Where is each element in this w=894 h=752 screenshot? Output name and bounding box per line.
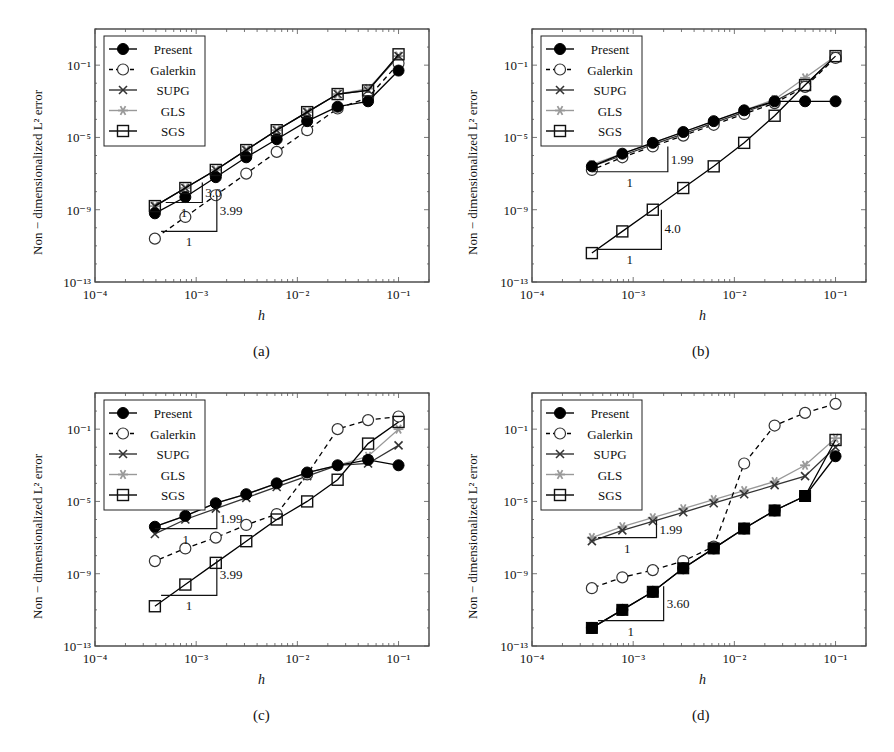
x-tick-label: 10⁻³ — [184, 287, 208, 302]
y-tick-label: 10⁻⁵ — [503, 494, 528, 509]
legend-label: Present — [591, 406, 630, 421]
caption: (c) — [253, 707, 270, 724]
x-tick-label: 10⁻¹ — [824, 287, 848, 302]
chart-d: 10⁻⁴10⁻³10⁻²10⁻¹10⁻¹³10⁻⁹10⁻⁵10⁻¹1.9913.… — [437, 364, 884, 740]
y-tick-label: 10⁻⁹ — [503, 567, 528, 582]
Galerkin-marker — [800, 407, 811, 418]
legend-label: Present — [154, 42, 193, 57]
slope-label: 3.60 — [667, 596, 690, 611]
Present-marker — [830, 451, 841, 462]
Galerkin-marker — [363, 415, 374, 426]
legend-label: SUPG — [593, 83, 626, 98]
legend-label: SUPG — [593, 447, 626, 462]
legend-label: SGS — [598, 488, 622, 503]
y-axis-label: Non − dimensionalized L² error — [465, 454, 481, 619]
Present-marker — [118, 408, 129, 419]
chart-a: 10⁻⁴10⁻³10⁻²10⁻¹10⁻¹³10⁻⁹10⁻⁵10⁻¹3.013.9… — [0, 0, 447, 376]
Galerkin-marker — [332, 424, 343, 435]
Galerkin-marker — [555, 428, 566, 439]
Present-marker — [210, 498, 221, 509]
SGS-marker — [678, 563, 689, 574]
caption: (b) — [692, 343, 710, 360]
y-tick-label: 10⁻⁵ — [503, 130, 528, 145]
x-tick-label: 10⁻¹ — [824, 651, 848, 666]
x-tick-label: 10⁻¹ — [387, 651, 411, 666]
legend-label: Present — [154, 406, 193, 421]
Galerkin-marker — [830, 398, 841, 409]
legend-label: GLS — [598, 104, 623, 119]
legend-label: Galerkin — [587, 427, 633, 442]
Present-marker — [830, 96, 841, 107]
Present-marker — [210, 172, 221, 183]
panel-b: 10⁻⁴10⁻³10⁻²10⁻¹10⁻¹³10⁻⁹10⁻⁵10⁻¹1.9914.… — [437, 0, 884, 376]
x-axis-label: h — [258, 672, 265, 688]
SGS-marker — [708, 543, 719, 554]
Galerkin-marker — [739, 458, 750, 469]
legend: PresentGalerkinSUPGGLSSGS — [104, 400, 205, 510]
Present-marker — [118, 44, 129, 55]
Galerkin-marker — [271, 146, 282, 157]
legend-item-galerkin: Galerkin — [109, 63, 196, 78]
legend-label: Present — [591, 42, 630, 57]
Present-marker — [393, 65, 404, 76]
run-label: 1 — [628, 624, 635, 639]
y-tick-label: 10⁻⁵ — [66, 494, 91, 509]
Present-marker — [149, 208, 160, 219]
legend: PresentGalerkinSUPGGLSSGS — [541, 36, 642, 146]
slope-label: 1.99 — [220, 511, 243, 526]
Present-marker — [332, 101, 343, 112]
y-tick-label: 10⁻¹ — [67, 422, 91, 437]
Galerkin-marker — [149, 233, 160, 244]
Present-marker — [241, 152, 252, 163]
Present-marker — [180, 510, 191, 521]
legend-label: GLS — [161, 468, 186, 483]
run-label: 1 — [627, 175, 634, 190]
SGS-marker — [800, 491, 811, 502]
Galerkin-marker — [241, 168, 252, 179]
Galerkin-marker — [118, 428, 129, 439]
SGS-marker — [647, 586, 658, 597]
Present-marker — [241, 489, 252, 500]
chart-c: 10⁻⁴10⁻³10⁻²10⁻¹10⁻¹³10⁻⁹10⁻⁵10⁻¹1.9913.… — [0, 364, 447, 740]
run-label: 1 — [626, 252, 633, 267]
slope-label: 3.0 — [205, 185, 221, 200]
x-tick-label: 10⁻¹ — [387, 287, 411, 302]
caption: (d) — [692, 707, 710, 724]
panel-d: 10⁻⁴10⁻³10⁻²10⁻¹10⁻¹³10⁻⁹10⁻⁵10⁻¹1.9913.… — [437, 364, 884, 740]
Galerkin-marker — [769, 420, 780, 431]
y-tick-label: 10⁻¹ — [504, 422, 528, 437]
run-label: 1 — [624, 541, 631, 556]
y-tick-label: 10⁻¹³ — [500, 639, 528, 654]
chart-b: 10⁻⁴10⁻³10⁻²10⁻¹10⁻¹³10⁻⁹10⁻⁵10⁻¹1.9914.… — [437, 0, 884, 376]
legend-label: SGS — [161, 124, 185, 139]
slope-label: 4.0 — [664, 221, 680, 236]
legend-label: GLS — [161, 104, 186, 119]
y-axis-label: Non − dimensionalized L² error — [30, 90, 46, 255]
legend: PresentGalerkinSUPGGLSSGS — [104, 36, 205, 146]
legend-label: Galerkin — [150, 63, 196, 78]
Present-marker — [363, 96, 374, 107]
slope-label: 1.99 — [671, 152, 694, 167]
x-axis-label: h — [258, 308, 265, 324]
legend: PresentGalerkinSUPGGLSSGS — [541, 400, 642, 510]
Galerkin-marker — [210, 532, 221, 543]
Present-marker — [363, 454, 374, 465]
Present-marker — [149, 521, 160, 532]
slope-label: 3.99 — [220, 567, 243, 582]
Galerkin-marker — [118, 64, 129, 75]
legend-label: SUPG — [156, 447, 189, 462]
y-axis-label: Non − dimensionalized L² error — [30, 454, 46, 619]
Galerkin-marker — [586, 583, 597, 594]
Present-marker — [769, 96, 780, 107]
Present-marker — [393, 460, 404, 471]
y-tick-label: 10⁻⁹ — [503, 203, 528, 218]
Present-marker — [800, 96, 811, 107]
y-tick-label: 10⁻¹ — [67, 58, 91, 73]
legend-label: GLS — [598, 468, 623, 483]
x-tick-label: 10⁻³ — [184, 651, 208, 666]
run-label: 1 — [186, 234, 193, 249]
legend-item-galerkin: Galerkin — [109, 427, 196, 442]
Present-marker — [555, 44, 566, 55]
legend-label: Galerkin — [587, 63, 633, 78]
legend-label: SGS — [598, 124, 622, 139]
